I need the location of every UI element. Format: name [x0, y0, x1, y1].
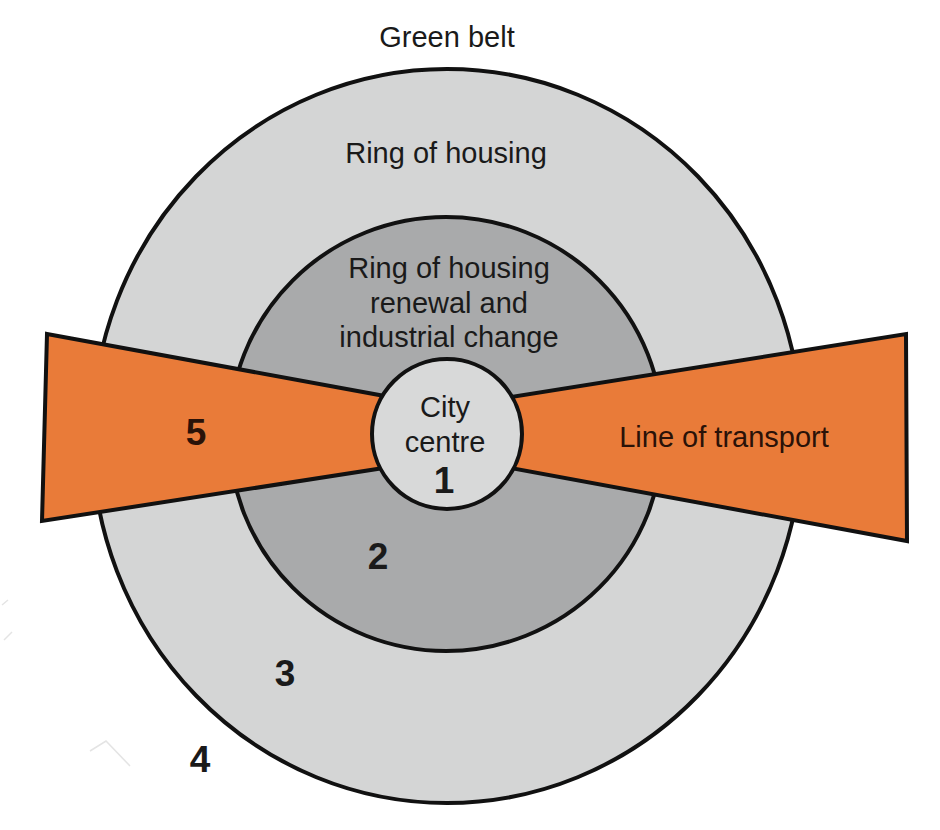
zone-number-2: 2 [368, 536, 389, 577]
zone-number-3: 3 [275, 653, 296, 694]
label-renewal-ring-line3: industrial change [339, 321, 558, 353]
concentric-zone-diagram: Green belt Ring of housing Ring of housi… [0, 0, 940, 830]
zone-number-4: 4 [190, 739, 211, 780]
label-ring-of-housing: Ring of housing [345, 137, 547, 169]
label-renewal-ring-line1: Ring of housing [348, 252, 550, 284]
label-city-centre-line1: City [420, 391, 470, 423]
zone-number-5: 5 [186, 412, 207, 453]
zone-number-1: 1 [434, 460, 455, 501]
label-city-centre-line2: centre [405, 426, 486, 458]
label-line-of-transport: Line of transport [619, 421, 829, 453]
label-renewal-ring-line2: renewal and [370, 287, 528, 319]
scan-artifact [2, 600, 12, 640]
label-green-belt: Green belt [379, 21, 514, 53]
scan-artifact [90, 741, 130, 766]
